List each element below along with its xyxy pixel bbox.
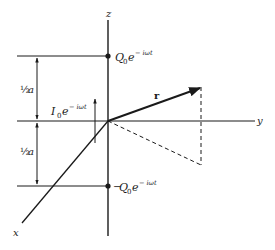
r-vector-label: r: [154, 90, 160, 101]
bottom-charge-label: − Q 0 e − iωt: [113, 179, 157, 196]
x-axis-label: x: [13, 227, 19, 238]
svg-text:0: 0: [123, 58, 127, 66]
current-label: I 0 e − iωt: [50, 103, 87, 120]
svg-text:I: I: [50, 105, 56, 118]
svg-text:− iωt: − iωt: [69, 103, 87, 111]
dipole-diagram: z y x ½ a ½ a Q 0 e − iωt − Q 0 e − iωt …: [0, 0, 275, 250]
svg-text:a: a: [28, 146, 34, 157]
r-projection-xy: [108, 121, 201, 165]
z-axis-label: z: [105, 8, 112, 19]
svg-text:0: 0: [127, 188, 131, 196]
svg-text:0: 0: [57, 112, 61, 120]
bottom-charge-dot: [105, 183, 110, 188]
top-charge-dot: [105, 53, 110, 58]
y-axis-label: y: [256, 115, 263, 126]
svg-text:− iωt: − iωt: [139, 179, 157, 187]
svg-text:e: e: [128, 51, 135, 64]
svg-text:a: a: [28, 84, 34, 95]
svg-text:e: e: [132, 181, 139, 194]
svg-text:e: e: [62, 105, 69, 118]
svg-text:− iωt: − iωt: [135, 49, 153, 57]
upper-half-a-label: ½ a: [20, 84, 34, 95]
top-charge-label: Q 0 e − iωt: [115, 49, 153, 66]
lower-half-a-label: ½ a: [20, 146, 34, 157]
